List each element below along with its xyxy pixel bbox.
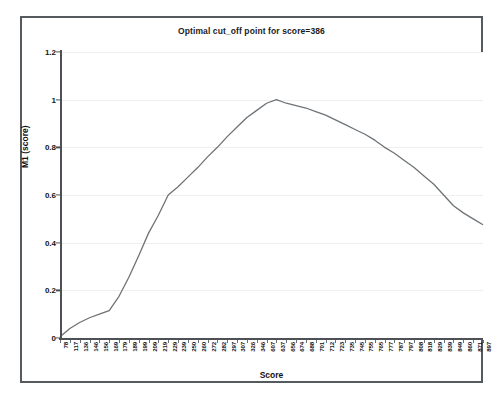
x-axis-tick-label: 712: [328, 342, 335, 352]
x-axis-tick-mark: [473, 340, 474, 343]
x-axis-tick-label: 897: [485, 342, 492, 352]
x-axis-tick-label: 169: [112, 342, 119, 352]
series-line-m1-score: [60, 52, 483, 338]
x-axis-tick-label: 209: [151, 342, 158, 352]
x-axis-tick-label: 250: [190, 342, 197, 352]
x-axis-tick-label: 860: [466, 342, 473, 352]
x-axis-tick-mark: [217, 340, 218, 343]
x-axis-tick-label: 829: [436, 342, 443, 352]
x-axis-tick-mark: [276, 340, 277, 343]
x-axis-tick-mark: [119, 340, 120, 343]
x-axis-tick-label: 229: [171, 342, 178, 352]
x-axis-tick-mark: [444, 340, 445, 343]
x-axis-tick-label: 839: [446, 342, 453, 352]
x-axis-tick-mark: [335, 340, 336, 343]
y-axis-tick-label: 0.6: [30, 191, 56, 200]
x-axis-tick-label: 723: [338, 342, 345, 352]
x-axis-tick-mark: [267, 340, 268, 343]
x-axis-tick-mark: [365, 340, 366, 343]
x-axis-tick-mark: [60, 340, 61, 343]
x-axis-tick-label: 282: [220, 342, 227, 352]
x-axis-tick-label: 189: [131, 342, 138, 352]
x-axis-title: Score: [60, 370, 483, 380]
x-axis-tick-label: 701: [318, 342, 325, 352]
x-axis-tick-mark: [375, 340, 376, 343]
y-axis-tick-mark: [56, 147, 60, 148]
x-axis-tick-label: 272: [210, 342, 217, 352]
x-axis-tick-label: 656: [289, 342, 296, 352]
x-axis-tick-mark: [158, 340, 159, 343]
x-axis-tick-mark: [99, 340, 100, 343]
x-axis-tick-mark: [237, 340, 238, 343]
x-axis-tick-label: 239: [180, 342, 187, 352]
x-axis-tick-mark: [394, 340, 395, 343]
x-axis-tick-mark: [168, 340, 169, 343]
x-axis-tick-label: 777: [387, 342, 394, 352]
y-axis-title: M1 (score): [20, 125, 30, 168]
x-axis-tick-label: 674: [298, 342, 305, 352]
x-axis-tick-mark: [257, 340, 258, 343]
chart-title: Optimal cut_off point for score=386: [22, 26, 481, 36]
x-axis-tick-label: 765: [377, 342, 384, 352]
x-axis-tick-mark: [424, 340, 425, 343]
x-axis-tick-mark: [208, 340, 209, 343]
x-axis-tick-label: 179: [121, 342, 128, 352]
y-axis-tick-mark: [56, 194, 60, 195]
x-axis-tick-mark: [178, 340, 179, 343]
x-axis-tick-mark: [385, 340, 386, 343]
y-axis-tick-labels: 00.20.40.60.811.2: [28, 52, 56, 338]
x-axis-tick-mark: [247, 340, 248, 343]
y-axis-tick-mark: [56, 337, 60, 338]
x-axis-tick-label: 326: [249, 342, 256, 352]
x-axis-tick-label: 346: [259, 342, 266, 352]
y-axis-tick-label: 0: [30, 334, 56, 343]
x-axis-tick-label: 607: [269, 342, 276, 352]
y-axis-tick-mark: [56, 51, 60, 52]
x-axis-tick-mark: [109, 340, 110, 343]
x-axis-tick-label: 78: [62, 342, 69, 348]
x-axis-tick-label: 755: [367, 342, 374, 352]
y-axis-tick-label: 1: [30, 95, 56, 104]
x-axis-tick-label: 735: [348, 342, 355, 352]
x-axis-tick-label: 745: [358, 342, 365, 352]
x-axis-tick-label: 117: [72, 342, 79, 351]
y-axis-tick-label: 0.2: [30, 286, 56, 295]
y-axis-tick-mark: [56, 242, 60, 243]
chart-frame: Optimal cut_off point for score=386 00.2…: [20, 16, 483, 383]
x-axis-tick-label: 219: [161, 342, 168, 352]
y-axis-line: [60, 50, 62, 340]
x-axis-tick-mark: [355, 340, 356, 343]
x-axis-tick-label: 156: [102, 342, 109, 352]
x-axis-tick-mark: [286, 340, 287, 343]
x-axis-tick-mark: [139, 340, 140, 343]
x-axis-tick-label: 307: [239, 342, 246, 352]
y-axis-tick-label: 1.2: [30, 48, 56, 57]
y-axis-tick-mark: [56, 99, 60, 100]
x-axis-tick-mark: [404, 340, 405, 343]
x-axis-tick-label: 136: [82, 342, 89, 352]
x-axis-tick-mark: [483, 340, 484, 343]
x-axis-tick-label: 871: [476, 342, 483, 352]
x-axis-tick-label: 637: [279, 342, 286, 352]
x-axis-tick-mark: [296, 340, 297, 343]
x-axis-tick-label: 260: [200, 342, 207, 352]
x-axis-tick-mark: [306, 340, 307, 343]
x-axis-tick-label: 797: [407, 342, 414, 352]
x-axis-tick-mark: [326, 340, 327, 343]
x-axis-tick-mark: [70, 340, 71, 343]
x-axis-tick-label: 849: [456, 342, 463, 352]
x-axis-tick-mark: [149, 340, 150, 343]
y-axis-tick-label: 0.8: [30, 143, 56, 152]
x-axis-tick-mark: [316, 340, 317, 343]
x-axis-tick-mark: [80, 340, 81, 343]
x-axis-tick-mark: [414, 340, 415, 343]
x-axis-tick-label: 146: [92, 342, 99, 352]
x-axis-tick-mark: [453, 340, 454, 343]
plot-area: [60, 52, 483, 338]
x-axis-tick-mark: [198, 340, 199, 343]
x-axis-tick-mark: [90, 340, 91, 343]
y-axis-tick-label: 0.4: [30, 238, 56, 247]
x-axis-tick-label: 787: [397, 342, 404, 352]
x-axis-tick-mark: [129, 340, 130, 343]
x-axis-tick-mark: [227, 340, 228, 343]
